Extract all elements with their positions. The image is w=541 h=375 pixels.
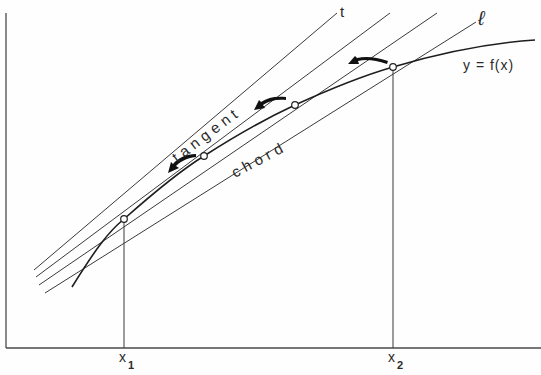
x1-label: x (119, 349, 126, 365)
x2-label: x (388, 349, 395, 365)
intermediate-point-1 (201, 153, 208, 160)
function-label: y = f(x) (463, 57, 514, 73)
x1-subscript: 1 (128, 359, 134, 371)
x1-point (121, 216, 128, 223)
secant-line-2 (39, 13, 437, 285)
tangent-chord-diagram: t ℓ y = f(x) tangent chord x 1 x 2 (0, 0, 541, 375)
tangent-label-t: t (340, 3, 345, 20)
x2-subscript: 2 (397, 359, 403, 371)
arrow-icon-3 (348, 56, 388, 64)
x2-point (390, 64, 397, 71)
intermediate-point-2 (292, 102, 299, 109)
chord-label-l: ℓ (477, 7, 486, 29)
diagram-canvas: t ℓ y = f(x) tangent chord x 1 x 2 (0, 0, 541, 375)
chord-word-label: chord (228, 137, 289, 180)
secant-line-1 (36, 13, 390, 277)
arrow-icon-2 (254, 97, 286, 110)
